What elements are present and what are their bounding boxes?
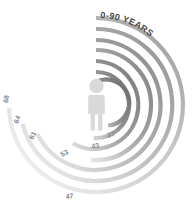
- arc-label-61: 61: [28, 130, 38, 140]
- radial-age-chart: 0-90 YEARS 37 43 53 61 64 68 47: [0, 0, 193, 210]
- person-silhouette-icon: [88, 79, 105, 131]
- arc-label-68: 68: [2, 95, 10, 104]
- arc-label-64: 64: [12, 115, 21, 125]
- arc-label-53: 53: [59, 148, 69, 158]
- chart-svg: 0-90 YEARS 37 43 53 61 64 68 47: [0, 0, 193, 210]
- arc-label-47: 47: [65, 192, 74, 200]
